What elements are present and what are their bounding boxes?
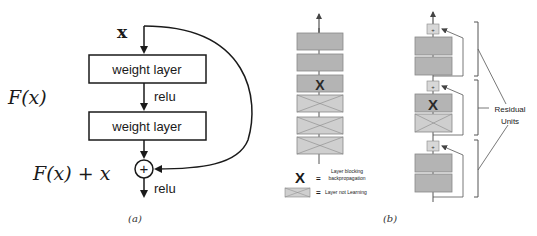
- unit1-layer-2: [415, 57, 452, 75]
- residual-unit-3: +: [415, 141, 463, 197]
- weight-layer-1-label: weight layer: [111, 62, 182, 77]
- unit1-layer-1: [415, 37, 452, 55]
- plain-layer-5-not-learning: [297, 117, 343, 134]
- unit2-blocking-x-icon: X: [428, 96, 438, 113]
- blocking-x-icon: X: [315, 77, 325, 93]
- plain-layer-2: [297, 54, 343, 71]
- legend-equals-2: =: [316, 188, 321, 197]
- plus-icon: +: [140, 160, 149, 177]
- residual-units-label-line1: Residual: [494, 105, 525, 114]
- legend-blocking-line1: Layer blocking: [331, 168, 363, 174]
- plain-layer-6-not-learning: [297, 137, 343, 154]
- weight-layer-2-label: weight layer: [111, 119, 182, 134]
- residual-unit-2: + X: [415, 81, 463, 135]
- relu-1-label: relu: [154, 89, 176, 104]
- unit3-layer-2: [415, 174, 452, 192]
- legend-blocking-line2: backpropagation: [329, 175, 366, 181]
- addition-node: +: [135, 160, 153, 178]
- legend: X = Layer blocking backpropagation = Lay…: [285, 168, 367, 197]
- weight-layer-2: weight layer: [89, 112, 206, 140]
- legend-not-learning-label: Layer not Learning: [325, 189, 367, 195]
- panel-b-residual-network: + + X: [415, 12, 526, 202]
- legend-equals-1: =: [316, 174, 321, 183]
- panel-b-plain-network: X: [297, 14, 343, 164]
- unit2-layer-2-not-learning: [415, 114, 452, 132]
- sum-label: F(x) + x: [32, 162, 111, 184]
- add-node-2-plus-icon: +: [431, 84, 435, 90]
- figure-canvas: x weight layer relu weight layer F(x) + …: [0, 0, 537, 236]
- add-node-3-plus-icon: +: [431, 144, 435, 150]
- legend-blocking-x-icon: X: [295, 169, 305, 186]
- plain-layer-1: [297, 33, 343, 50]
- caption-b: (b): [383, 213, 397, 224]
- unit3-layer-1: [415, 154, 452, 172]
- caption-a: (a): [128, 213, 142, 224]
- add-node-1: +: [427, 24, 439, 34]
- unit2-layer-1-blocking: X: [415, 94, 452, 113]
- plain-layer-3-blocking: X: [297, 75, 343, 93]
- add-node-2: +: [427, 81, 439, 91]
- relu-2-label: relu: [154, 181, 176, 196]
- panel-a-residual-block: x weight layer relu weight layer F(x) + …: [7, 22, 252, 224]
- input-x-label: x: [117, 22, 128, 42]
- residual-units-label-line2: Units: [501, 117, 519, 126]
- plain-layer-4-not-learning: [297, 95, 343, 112]
- add-node-3: +: [427, 141, 439, 151]
- add-node-1-plus-icon: +: [431, 27, 435, 33]
- weight-layer-1: weight layer: [89, 55, 206, 83]
- residual-unit-1: +: [415, 24, 463, 76]
- residual-function-label: F(x): [7, 86, 47, 108]
- legend-not-learning-swatch: [285, 188, 310, 197]
